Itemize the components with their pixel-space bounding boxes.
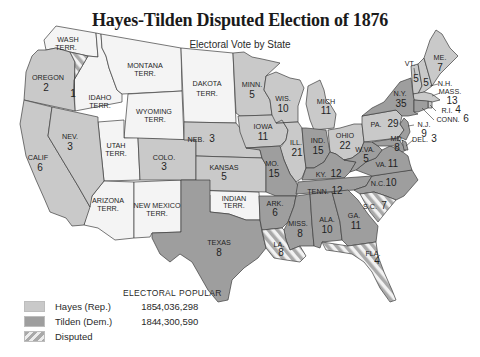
votes-nj: 9 <box>421 128 427 139</box>
disputed-swatch <box>24 331 45 342</box>
hayes-swatch <box>24 301 45 312</box>
votes-mo: 15 <box>268 168 280 179</box>
votes-ohio: 22 <box>339 140 351 151</box>
tilden-swatch <box>24 316 45 327</box>
votes-miss: 8 <box>297 228 303 239</box>
label-montana-terr: TERR. <box>134 69 156 78</box>
label-va: VA. <box>375 160 386 169</box>
legend-header-electoral: ELECTORAL <box>123 288 176 298</box>
votes-ky: 12 <box>330 168 342 179</box>
votes-nev: 3 <box>67 141 73 152</box>
label-ga: GA. <box>348 211 360 220</box>
legend-row-tilden: Tilden (Dem.) 184 4,300,590 <box>24 316 284 329</box>
votes-md: 8 <box>394 142 400 153</box>
label-nev: NEV. <box>62 132 78 141</box>
votes-ny: 35 <box>395 98 407 109</box>
label-utah-terr: TERR. <box>105 149 127 158</box>
label-wyoming-terr: TERR. <box>144 115 166 124</box>
legend-name: Tilden (Dem.) <box>55 316 112 327</box>
votes-del: 3 <box>431 133 437 144</box>
legend-popular: 4,036,298 <box>156 301 198 312</box>
votes-nh: 5 <box>423 77 429 88</box>
label-dakota: DAKOTA <box>192 79 221 88</box>
label-ind: IND. <box>311 136 325 145</box>
legend-row-disputed: Disputed <box>24 331 284 344</box>
votes-la: 8 <box>278 247 284 258</box>
votes-me: 7 <box>437 62 443 73</box>
votes-sc: 7 <box>381 200 387 211</box>
legend-name: Disputed <box>55 331 93 342</box>
votes-iowa: 11 <box>258 131 269 142</box>
legend-header-popular: POPULAR <box>179 288 222 298</box>
label-dakota-terr: TERR. <box>196 89 218 98</box>
votes-colo: 3 <box>161 161 167 172</box>
legend-electoral: 184 <box>127 316 157 327</box>
votes-calif: 6 <box>37 162 43 173</box>
label-mo: MO. <box>265 159 279 168</box>
label-me: ME. <box>434 53 447 62</box>
votes-ill: 21 <box>291 147 303 158</box>
votes-va: 11 <box>388 158 399 169</box>
votes-wis: 10 <box>277 103 289 114</box>
votes-nc: 10 <box>385 177 397 188</box>
votes-neb: 3 <box>209 133 215 144</box>
label-ill: ILL. <box>290 138 302 147</box>
label-miss: MISS. <box>288 219 308 228</box>
label-neb: NEB. <box>188 135 205 144</box>
region-ny <box>362 78 418 116</box>
label-tenn: TENN. <box>307 187 329 196</box>
label-conn: CONN. <box>436 115 459 124</box>
region-ri <box>428 101 432 108</box>
label-nc: N.C. <box>371 179 385 188</box>
label-calif: CALIF <box>28 153 49 162</box>
label-ky: KY. <box>316 170 327 179</box>
region-fla <box>322 242 396 302</box>
votes-kansas: 5 <box>221 171 227 182</box>
votes-oregon: 2 <box>43 82 49 93</box>
votes-mich: 11 <box>321 105 332 116</box>
votes-ark: 6 <box>272 207 278 218</box>
label-minn: MINN. <box>242 80 262 89</box>
label-texas: TEXAS <box>207 238 231 247</box>
label-pa: PA. <box>370 120 381 129</box>
votes-ri: 4 <box>455 104 461 115</box>
votes-fla: 4 <box>374 255 380 266</box>
label-idaho-terr: TERR. <box>89 101 111 110</box>
legend-electoral: 185 <box>127 301 157 312</box>
votes-ga: 11 <box>351 220 362 231</box>
votes-minn: 5 <box>249 89 255 100</box>
label-oregon: OREGON <box>32 73 64 82</box>
region-conn <box>414 100 428 112</box>
votes-vt: 5 <box>413 73 419 84</box>
legend-row-hayes: Hayes (Rep.) 185 4,036,298 <box>24 301 284 314</box>
votes-ala: 10 <box>321 224 333 235</box>
label-sc: S.C. <box>363 202 377 211</box>
votes-tenn: 12 <box>331 185 343 196</box>
votes-oregon-disputed: 1 <box>70 88 76 99</box>
label-wash-terr: TERR. <box>55 43 77 52</box>
votes-texas: 8 <box>216 247 222 258</box>
votes-conn: 6 <box>463 113 469 124</box>
label-ala: ALA. <box>319 215 335 224</box>
label-newmexico-terr: TERR. <box>146 209 168 218</box>
legend-name: Hayes (Rep.) <box>55 301 111 312</box>
votes-ind: 15 <box>312 145 324 156</box>
votes-wva: 5 <box>363 153 369 164</box>
label-wis: WIS. <box>275 94 291 103</box>
label-ohio: OHIO <box>336 131 355 140</box>
label-ri: R.I. <box>441 106 452 115</box>
legend-popular: 4,300,590 <box>156 316 198 327</box>
label-arizona-terr: TERR. <box>97 204 119 213</box>
label-iowa: IOWA <box>254 122 273 131</box>
label-ny: N.Y. <box>393 89 406 98</box>
votes-pa: 29 <box>387 118 399 129</box>
label-indian-terr: TERR. <box>223 201 245 210</box>
label-vt: VT. <box>405 59 415 68</box>
